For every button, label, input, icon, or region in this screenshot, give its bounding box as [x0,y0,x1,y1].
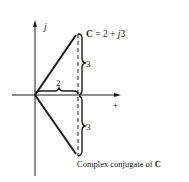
horizontal-brace [36,88,78,94]
lower-dimension-label: 3 [86,122,91,132]
horizontal-dimension-label: 2 [56,78,61,88]
conjugate-label: Complex conjugate of C [77,159,161,169]
arrow-right-icon [114,93,121,97]
real-axis [12,93,121,97]
arrow-up-icon [33,20,37,27]
lower-vertical-brace [78,96,85,156]
vector-conjugate [35,95,76,154]
real-axis-label: + [113,100,118,110]
complex-plane-diagram: j + C = 2 + j3 2 3 3 Complex conjugate o… [0,0,189,182]
upper-vertical-brace [78,34,85,95]
imaginary-axis-label: j [42,21,47,32]
upper-dimension-label: 3 [86,59,91,69]
point-c-label: C = 2 + j3 [86,29,125,39]
